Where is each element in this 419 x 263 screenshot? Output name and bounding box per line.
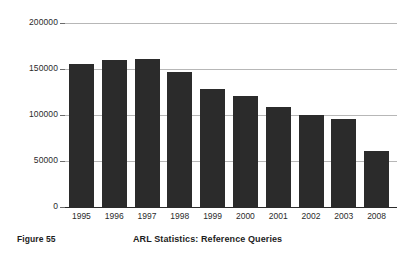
bar bbox=[69, 64, 94, 207]
x-tick-label: 1998 bbox=[163, 210, 196, 222]
bar bbox=[331, 119, 356, 207]
bar bbox=[167, 72, 192, 207]
bars-group bbox=[0, 0, 419, 232]
x-tick-label: 1996 bbox=[98, 210, 131, 222]
bar bbox=[233, 96, 258, 207]
x-tick-label: 2000 bbox=[229, 210, 262, 222]
caption: Figure 55 ARL Statistics: Reference Quer… bbox=[0, 234, 419, 250]
bar bbox=[200, 89, 225, 207]
bar bbox=[299, 115, 324, 207]
x-axis: 1995199619971998199920002001200220032008 bbox=[0, 210, 419, 226]
x-tick-label: 2008 bbox=[360, 210, 393, 222]
x-tick-label: 2001 bbox=[262, 210, 295, 222]
bar bbox=[266, 107, 291, 207]
chart-title: ARL Statistics: Reference Queries bbox=[133, 234, 282, 244]
figure-container: 200000150000100000500000 199519961997199… bbox=[0, 0, 419, 263]
bar bbox=[102, 60, 127, 207]
x-tick-label: 2003 bbox=[327, 210, 360, 222]
bar bbox=[135, 59, 160, 207]
x-tick-label: 1995 bbox=[65, 210, 98, 222]
x-tick-label: 1997 bbox=[131, 210, 164, 222]
bar-chart: 200000150000100000500000 199519961997199… bbox=[0, 0, 419, 232]
x-tick-label: 1999 bbox=[196, 210, 229, 222]
x-tick-label: 2002 bbox=[295, 210, 328, 222]
figure-number-label: Figure 55 bbox=[17, 234, 56, 244]
bar bbox=[364, 151, 389, 207]
